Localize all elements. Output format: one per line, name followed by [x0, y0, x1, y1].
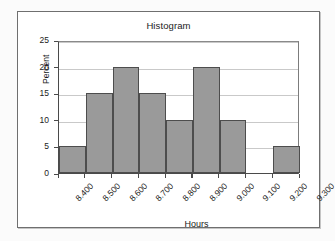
- y-tick-mark: [54, 41, 58, 42]
- y-tick-label: 0: [31, 168, 49, 178]
- y-tick-label: 15: [31, 88, 49, 98]
- x-tick-mark: [191, 174, 192, 178]
- y-tick-label: 25: [31, 35, 49, 45]
- x-tick-mark: [245, 174, 246, 178]
- y-tick-mark: [54, 147, 58, 148]
- plot-area: [58, 41, 299, 174]
- histogram-bar: [273, 146, 300, 173]
- histogram-bar: [59, 146, 86, 173]
- histogram-bar: [113, 67, 140, 173]
- bar-series: [59, 42, 298, 173]
- y-tick-mark: [54, 120, 58, 121]
- x-tick-mark: [299, 174, 300, 178]
- histogram-bar: [166, 120, 193, 173]
- histogram-bar: [86, 93, 113, 173]
- y-tick-label: 5: [31, 141, 49, 151]
- x-tick-mark: [84, 174, 85, 178]
- y-tick-label: 20: [31, 62, 49, 72]
- histogram-bar: [139, 93, 166, 173]
- page-background: Histogram Percent Hours 0510152025 8.400…: [0, 0, 335, 241]
- histogram-bar: [220, 120, 247, 173]
- x-tick-mark: [218, 174, 219, 178]
- y-tick-label: 10: [31, 115, 49, 125]
- y-tick-mark: [54, 94, 58, 95]
- chart-title: Histogram: [18, 20, 319, 31]
- x-tick-mark: [58, 174, 59, 178]
- x-axis-title: Hours: [76, 219, 317, 229]
- x-tick-mark: [272, 174, 273, 178]
- histogram-bar: [193, 67, 220, 173]
- x-tick-mark: [165, 174, 166, 178]
- x-tick-mark: [138, 174, 139, 178]
- y-tick-mark: [54, 67, 58, 68]
- x-tick-mark: [111, 174, 112, 178]
